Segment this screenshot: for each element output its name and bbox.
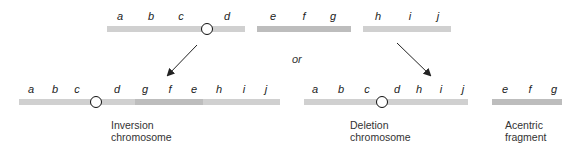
centromere-icon bbox=[90, 96, 102, 108]
gene-label: h bbox=[416, 84, 422, 95]
caption-line: Inversion bbox=[111, 119, 172, 131]
arrow-to-deletion-icon bbox=[397, 43, 430, 75]
caption-line: chromosome bbox=[111, 131, 172, 143]
gene-label: e bbox=[502, 84, 508, 95]
centromere-icon bbox=[376, 96, 388, 108]
caption-line: Deletion bbox=[350, 119, 411, 131]
segment-bar bbox=[19, 99, 135, 105]
caption-line: Acentric bbox=[505, 119, 546, 131]
arrows bbox=[0, 0, 577, 148]
gene-label: j bbox=[265, 84, 267, 95]
gene-label: i bbox=[440, 84, 442, 95]
inversion-caption: Inversion chromosome bbox=[111, 119, 172, 143]
gene-label: e bbox=[191, 84, 197, 95]
gene-label: b bbox=[338, 84, 344, 95]
gene-label: h bbox=[216, 84, 222, 95]
gene-label: d bbox=[394, 84, 400, 95]
gene-label: a bbox=[312, 84, 318, 95]
gene-label: g bbox=[142, 84, 148, 95]
deletion-caption: Deletion chromosome bbox=[350, 119, 411, 143]
gene-label: g bbox=[551, 84, 557, 95]
gene-label: j bbox=[462, 84, 464, 95]
gene-label: f bbox=[528, 84, 531, 95]
arrow-to-inversion-icon bbox=[168, 45, 197, 75]
gene-label: d bbox=[114, 84, 120, 95]
inverted-segment-bar bbox=[135, 99, 203, 105]
or-label: or bbox=[292, 53, 302, 65]
caption-line: chromosome bbox=[350, 131, 411, 143]
gene-label: c bbox=[74, 84, 80, 95]
gene-label: i bbox=[243, 84, 245, 95]
segment-bar bbox=[492, 99, 562, 105]
caption-line: fragment bbox=[505, 131, 546, 143]
segment-bar bbox=[203, 99, 280, 105]
gene-label: b bbox=[52, 84, 58, 95]
gene-label: f bbox=[168, 84, 171, 95]
gene-label: c bbox=[364, 84, 370, 95]
acentric-caption: Acentric fragment bbox=[505, 119, 546, 143]
gene-label: a bbox=[28, 84, 34, 95]
